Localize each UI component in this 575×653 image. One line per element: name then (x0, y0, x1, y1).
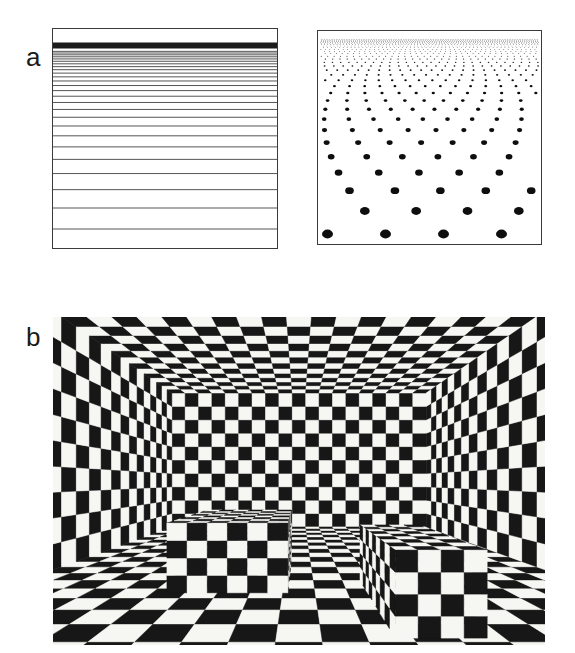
dot-gradient-svg (317, 30, 542, 245)
panel-b-label: b (26, 324, 40, 350)
figure-canvas: a b (0, 0, 575, 653)
checkerboard-room-figure (53, 317, 545, 645)
panel-a-label: a (26, 44, 40, 70)
line-gradient-svg (52, 28, 278, 249)
checkerboard-room-svg (53, 317, 545, 645)
line-texture-gradient-figure (52, 28, 278, 249)
dot-texture-gradient-figure (317, 30, 542, 245)
